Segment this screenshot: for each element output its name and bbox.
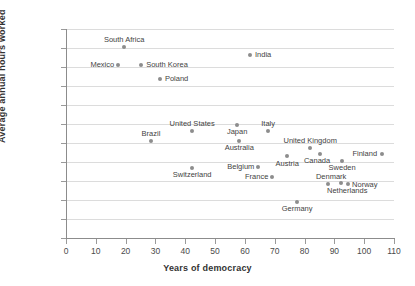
data-point-label: Poland xyxy=(165,75,188,83)
data-point-label: South Africa xyxy=(104,36,144,44)
x-tick-label: 50 xyxy=(210,246,219,256)
data-point xyxy=(346,182,350,186)
x-tick-mark xyxy=(126,239,127,244)
data-point-label: Belgium xyxy=(227,163,254,171)
data-point-label: Japan xyxy=(227,128,247,136)
data-point xyxy=(380,152,384,156)
data-point-label: United Kingdom xyxy=(284,136,337,144)
data-point-label: Mexico xyxy=(90,61,114,69)
data-point-label: Germany xyxy=(282,205,313,213)
x-tick-mark xyxy=(334,239,335,244)
data-point xyxy=(139,63,143,67)
x-tick-mark xyxy=(305,239,306,244)
x-tick-mark xyxy=(185,239,186,244)
data-point xyxy=(190,129,194,133)
data-point xyxy=(248,53,252,57)
x-tick-label: 40 xyxy=(181,246,190,256)
x-axis-line xyxy=(66,238,395,239)
x-tick-mark xyxy=(245,239,246,244)
x-tick-mark xyxy=(66,239,67,244)
x-tick-label: 30 xyxy=(151,246,160,256)
data-point xyxy=(308,146,312,150)
data-point xyxy=(266,129,270,133)
x-tick-label: 0 xyxy=(64,246,69,256)
y-axis-title: Average annual hours worked xyxy=(0,9,7,143)
x-axis-title: Years of democracy xyxy=(0,263,415,273)
data-point-label: Sweden xyxy=(329,164,356,172)
x-tick-mark xyxy=(394,239,395,244)
x-tick-label: 80 xyxy=(300,246,309,256)
data-point-label: Brazil xyxy=(142,129,161,137)
data-point-label: South Korea xyxy=(146,61,188,69)
data-point xyxy=(149,139,153,143)
data-point-label: Switzerland xyxy=(173,171,212,179)
data-point xyxy=(270,175,274,179)
data-point-label: Italy xyxy=(261,119,275,127)
x-tick-label: 110 xyxy=(387,246,401,256)
plot-area: South AfricaMexicoSouth KoreaPolandIndia… xyxy=(66,29,394,238)
data-point xyxy=(256,165,260,169)
data-point-label: Norway xyxy=(352,181,377,189)
data-point xyxy=(158,77,162,81)
scatter-chart: Average annual hours worked Years of dem… xyxy=(0,0,415,286)
data-point-label: Australia xyxy=(225,144,254,152)
x-tick-mark xyxy=(96,239,97,244)
x-tick-label: 10 xyxy=(91,246,100,256)
x-tick-label: 20 xyxy=(121,246,130,256)
data-point xyxy=(285,154,289,158)
x-tick-label: 100 xyxy=(357,246,371,256)
x-tick-label: 70 xyxy=(270,246,279,256)
data-point-label: Canada xyxy=(304,157,330,165)
x-tick-mark xyxy=(275,239,276,244)
data-point-label: Finland xyxy=(352,150,377,158)
x-tick-mark xyxy=(215,239,216,244)
x-tick-label: 90 xyxy=(330,246,339,256)
x-tick-mark xyxy=(155,239,156,244)
data-point-label: Denmark xyxy=(316,173,346,181)
data-point-label: United States xyxy=(170,119,215,127)
x-tick-label: 60 xyxy=(240,246,249,256)
data-point-label: Austria xyxy=(276,160,299,168)
data-point-label: France xyxy=(245,173,268,181)
data-point xyxy=(122,45,126,49)
data-point xyxy=(116,63,120,67)
x-tick-mark xyxy=(364,239,365,244)
data-point xyxy=(339,181,343,185)
data-point-label: India xyxy=(255,51,271,59)
